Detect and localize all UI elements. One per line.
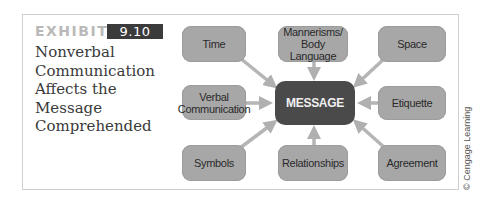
node-space: Space: [378, 26, 446, 62]
node-agreement: Agreement: [378, 145, 446, 181]
node-etiquette: Etiquette: [378, 86, 446, 120]
arrow-agreement: [358, 124, 385, 148]
node-time: Time: [182, 26, 246, 62]
arrow-time: [240, 58, 272, 84]
arrow-space: [358, 58, 385, 83]
node-symbols: Symbols: [182, 145, 246, 181]
arrow-symbols: [240, 124, 272, 148]
node-verbal-communication: Verbal Communication: [182, 85, 246, 120]
node-message-center: MESSAGE: [275, 81, 355, 125]
copyright-credit: © Cengage Learning: [462, 107, 472, 190]
node-relationships: Relationships: [278, 145, 348, 181]
node-mannerisms-body-language: Mannerisms/ Body Language: [278, 26, 348, 62]
